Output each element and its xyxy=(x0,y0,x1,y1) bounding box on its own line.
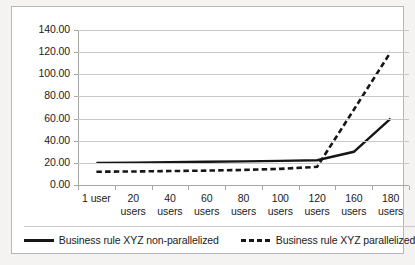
gridline xyxy=(78,119,409,120)
gridline xyxy=(78,52,409,53)
y-axis-tick-label: 120.00 xyxy=(14,46,70,57)
y-axis-tick-label: 40.00 xyxy=(14,135,70,146)
x-axis-tick-label: 20users xyxy=(115,192,152,217)
gridline xyxy=(78,141,409,142)
x-axis-tick-label: 160users xyxy=(335,192,372,217)
y-axis-tick xyxy=(74,185,78,186)
figure-background: 0.0020.0040.0060.0080.00100.00120.00140.… xyxy=(0,0,415,265)
legend: Business rule XYZ non-parallelizedBusine… xyxy=(24,226,415,260)
x-axis-tick xyxy=(372,186,373,190)
y-axis-tick-label: 0.00 xyxy=(14,179,70,190)
x-axis-tick-label: 60users xyxy=(188,192,225,217)
x-axis-tick xyxy=(115,186,116,190)
x-axis-tick xyxy=(299,186,300,190)
x-axis-tick xyxy=(188,186,189,190)
legend-entry-1[interactable]: Business rule XYZ non-parallelized xyxy=(24,234,219,246)
legend-entry-2[interactable]: Business rule XYZ parallelized xyxy=(241,234,415,246)
x-axis-tick-label: 100users xyxy=(262,192,299,217)
gridline xyxy=(78,163,409,164)
x-axis-tick-labels: 1 user20users40users60users80users100use… xyxy=(78,192,409,226)
y-axis-tick xyxy=(74,30,78,31)
gridline xyxy=(78,30,409,31)
y-axis-tick xyxy=(74,74,78,75)
y-axis-tick xyxy=(74,163,78,164)
chart-frame: 0.0020.0040.0060.0080.00100.00120.00140.… xyxy=(11,6,404,254)
legend-label: Business rule XYZ non-parallelized xyxy=(59,234,219,246)
x-axis-tick xyxy=(78,186,79,190)
x-axis-tick xyxy=(262,186,263,190)
gridline xyxy=(78,74,409,75)
dashed-line-icon xyxy=(241,239,271,242)
plot-area xyxy=(78,30,409,185)
x-axis-tick-label: 1 user xyxy=(78,192,115,205)
y-axis-tick-label: 80.00 xyxy=(14,90,70,101)
x-axis-tick xyxy=(335,186,336,190)
y-axis-tick-label: 20.00 xyxy=(14,157,70,168)
x-axis-tick-label: 40users xyxy=(152,192,189,217)
y-axis-tick xyxy=(74,119,78,120)
y-axis-tick xyxy=(74,52,78,53)
x-axis-tick xyxy=(225,186,226,190)
solid-line-icon xyxy=(24,239,54,242)
series-layer xyxy=(78,30,409,185)
gridline xyxy=(78,185,409,186)
x-axis-tick-label: 80users xyxy=(225,192,262,217)
y-axis-tick-label: 140.00 xyxy=(14,24,70,35)
y-axis-tick-label: 100.00 xyxy=(14,68,70,79)
x-axis-tick xyxy=(152,186,153,190)
legend-entries: Business rule XYZ non-parallelizedBusine… xyxy=(24,234,415,246)
gridline xyxy=(78,96,409,97)
x-axis-tick-label: 120users xyxy=(299,192,336,217)
legend-label: Business rule XYZ parallelized xyxy=(276,234,415,246)
y-axis-tick xyxy=(74,141,78,142)
y-axis-tick xyxy=(74,96,78,97)
x-axis-tick-label: 180users xyxy=(372,192,409,217)
x-axis-tick xyxy=(409,186,410,190)
y-axis-tick-label: 60.00 xyxy=(14,113,70,124)
